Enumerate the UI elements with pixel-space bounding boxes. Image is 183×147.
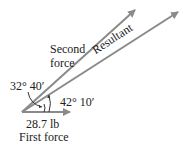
angle-upper-label: 32° 40′ [10, 80, 44, 92]
resultant-vector [22, 12, 178, 112]
second-force-label-line2: force [50, 57, 75, 69]
first-force-name-label: First force [19, 131, 69, 143]
first-force-magnitude-label: 28.7 lb [26, 118, 59, 130]
second-force-label-line1: Second [50, 43, 85, 55]
angle-lower-label: 42° 10′ [60, 96, 94, 108]
